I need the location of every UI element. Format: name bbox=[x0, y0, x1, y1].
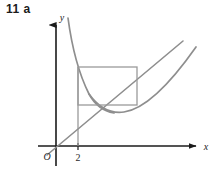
figure-container: 11 a y x O bbox=[0, 0, 211, 171]
exercise-label: 11 a bbox=[6, 2, 31, 16]
x-axis-label: x bbox=[203, 141, 209, 152]
figure-svg: y x O 2 bbox=[0, 0, 211, 171]
diagonal-line-y-equals-x bbox=[47, 41, 183, 155]
decreasing-curve bbox=[68, 18, 114, 113]
increasing-curve bbox=[89, 47, 196, 112]
x-tick-label-2: 2 bbox=[76, 152, 81, 163]
origin-label: O bbox=[43, 151, 50, 162]
y-axis-label: y bbox=[59, 12, 65, 23]
